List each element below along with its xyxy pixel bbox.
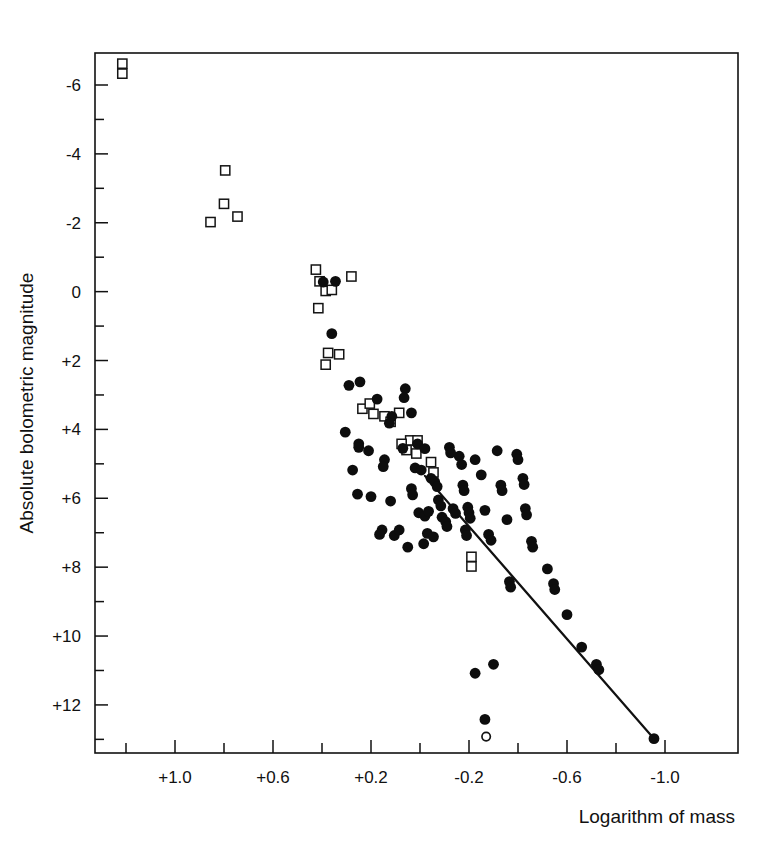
data-point-open-square	[324, 348, 333, 357]
data-point-filled-circle	[562, 609, 573, 620]
x-tick-label: +0.2	[354, 768, 388, 787]
x-tick-label: -0.6	[552, 768, 581, 787]
data-point-filled-circle	[355, 376, 366, 387]
figure-background	[0, 0, 775, 857]
data-point-filled-circle	[366, 491, 377, 502]
x-axis-title: Logarithm of mass	[579, 806, 735, 827]
x-tick-label: -1.0	[650, 768, 679, 787]
data-point-filled-circle	[442, 521, 453, 532]
data-point-open-square	[219, 199, 228, 208]
data-point-filled-circle	[372, 394, 383, 405]
data-point-open-square	[327, 285, 336, 294]
data-point-open-square	[311, 265, 320, 274]
data-point-filled-circle	[593, 664, 604, 675]
data-point-filled-circle	[394, 525, 405, 536]
data-point-open-square	[233, 212, 242, 221]
data-point-filled-circle	[432, 481, 443, 492]
data-point-filled-circle	[352, 489, 363, 500]
data-point-filled-circle	[521, 509, 532, 520]
data-point-filled-circle	[340, 427, 351, 438]
data-point-filled-circle	[576, 642, 587, 653]
data-point-filled-circle	[385, 496, 396, 507]
y-axis-title: Absolute bolometric magnitude	[16, 273, 37, 534]
data-point-open-square	[321, 360, 330, 369]
data-point-filled-circle	[406, 407, 417, 418]
data-point-filled-circle	[480, 714, 491, 725]
data-point-open-square	[347, 272, 356, 281]
data-point-filled-circle	[330, 276, 341, 287]
data-point-filled-circle	[416, 465, 427, 476]
data-point-filled-circle	[407, 489, 418, 500]
data-markers-open-circle	[482, 732, 490, 740]
data-point-filled-circle	[402, 542, 413, 553]
data-point-filled-circle	[465, 513, 476, 524]
data-point-open-square	[118, 59, 127, 68]
data-point-filled-circle	[505, 582, 516, 593]
data-point-open-square	[426, 458, 435, 467]
y-tick-label: 0	[72, 283, 81, 302]
data-point-open-square	[118, 69, 127, 78]
data-point-filled-circle	[459, 485, 470, 496]
x-tick-label: -0.2	[454, 768, 483, 787]
data-point-open-square	[221, 166, 230, 175]
data-point-filled-circle	[353, 442, 364, 453]
x-tick-label: +1.0	[158, 768, 192, 787]
data-point-open-circle	[482, 732, 490, 740]
data-point-filled-circle	[502, 514, 513, 525]
data-point-filled-circle	[344, 380, 355, 391]
data-point-open-square	[206, 217, 215, 226]
data-point-filled-circle	[480, 505, 491, 516]
y-tick-label: -4	[66, 145, 81, 164]
data-point-filled-circle	[374, 529, 385, 540]
data-point-open-square	[467, 552, 476, 561]
data-point-filled-circle	[318, 277, 329, 288]
data-point-filled-circle	[450, 508, 461, 519]
y-tick-label: -6	[66, 76, 81, 95]
data-point-filled-circle	[470, 668, 481, 679]
plot-canvas: Absolute bolometric magnitude Logarithm …	[0, 0, 775, 857]
y-tick-label: +2	[62, 352, 81, 371]
data-point-filled-circle	[384, 418, 395, 429]
y-tick-label: +12	[52, 696, 81, 715]
data-point-filled-circle	[363, 445, 374, 456]
scatter-plot-figure: Absolute bolometric magnitude Logarithm …	[0, 0, 775, 857]
data-point-filled-circle	[513, 454, 524, 465]
data-point-filled-circle	[418, 538, 429, 549]
data-point-filled-circle	[542, 563, 553, 574]
data-point-filled-circle	[445, 447, 456, 458]
data-point-filled-circle	[488, 659, 499, 670]
data-point-open-square	[335, 350, 344, 359]
data-point-filled-circle	[435, 500, 446, 511]
data-point-filled-circle	[326, 328, 337, 339]
data-point-filled-circle	[428, 531, 439, 542]
data-point-open-square	[467, 562, 476, 571]
data-point-filled-circle	[649, 733, 660, 744]
data-point-filled-circle	[476, 469, 487, 480]
y-tick-label: -2	[66, 214, 81, 233]
data-point-filled-circle	[399, 392, 410, 403]
data-point-filled-circle	[519, 479, 530, 490]
data-point-filled-circle	[527, 542, 538, 553]
data-point-filled-circle	[470, 454, 481, 465]
data-point-filled-circle	[420, 443, 431, 454]
data-point-filled-circle	[497, 485, 508, 496]
data-point-open-square	[369, 409, 378, 418]
y-tick-label: +4	[62, 420, 81, 439]
data-point-open-square	[314, 304, 323, 313]
data-point-filled-circle	[397, 443, 408, 454]
y-tick-label: +6	[62, 489, 81, 508]
data-point-open-square	[412, 449, 421, 458]
data-point-filled-circle	[378, 461, 389, 472]
data-point-filled-circle	[347, 465, 358, 476]
x-tick-label: +0.6	[256, 768, 290, 787]
y-tick-label: +10	[52, 627, 81, 646]
data-point-filled-circle	[549, 584, 560, 595]
data-point-filled-circle	[492, 445, 503, 456]
data-point-filled-circle	[423, 506, 434, 517]
y-tick-label: +8	[62, 558, 81, 577]
data-point-filled-circle	[486, 535, 497, 546]
data-point-filled-circle	[461, 530, 472, 541]
data-point-filled-circle	[456, 459, 467, 470]
